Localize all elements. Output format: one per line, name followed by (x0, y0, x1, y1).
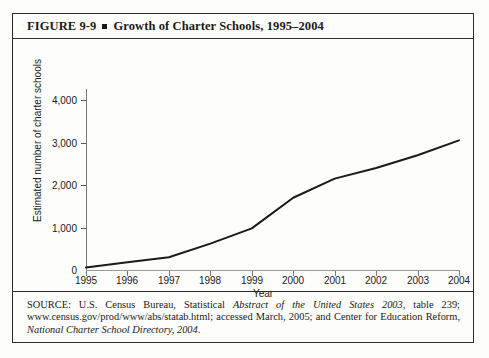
y-tick-label-4000: 4,000 (37, 95, 77, 106)
x-tick-label-2004: 2004 (439, 275, 479, 286)
figure-title-text: Growth of Charter Schools, 1995–2004 (113, 19, 323, 33)
figure-container: FIGURE 9-9Growth of Charter Schools, 199… (12, 13, 474, 343)
source-divider (13, 291, 473, 292)
y-tick-label-2000: 2,000 (37, 180, 77, 191)
source-italic-title-1: Abstract of the United States 2003 (233, 299, 403, 310)
x-tick-label-1995: 1995 (66, 275, 106, 286)
x-tick-label-1999: 1999 (232, 275, 272, 286)
figure-number: FIGURE 9-9 (27, 19, 96, 33)
source-suffix: . (198, 324, 201, 335)
x-tick-label-1998: 1998 (190, 275, 230, 286)
source-italic-title-2: National Charter School Directory, 2004 (27, 324, 198, 335)
figure-title-bar: FIGURE 9-9Growth of Charter Schools, 199… (13, 14, 473, 39)
x-axis-label: Year (213, 288, 313, 299)
page-title: FIGURE 9-9Growth of Charter Schools, 199… (27, 19, 324, 34)
x-tick-label-2000: 2000 (273, 275, 313, 286)
x-tick-label-2003: 2003 (398, 275, 438, 286)
x-tick-label-1996: 1996 (107, 275, 147, 286)
y-tick-label-1000: 1,000 (37, 223, 77, 234)
chart-plot-area: Estimated number of charter schools 4,00… (13, 39, 473, 291)
y-tick-label-3000: 3,000 (37, 138, 77, 149)
x-axis-line (86, 270, 460, 271)
source-note: SOURCE: U.S. Census Bureau, Statistical … (27, 299, 460, 336)
y-axis-line (86, 89, 87, 271)
x-tick-label-2002: 2002 (356, 275, 396, 286)
square-bullet-icon (102, 24, 107, 29)
x-tick-label-1997: 1997 (149, 275, 189, 286)
source-prefix: SOURCE: U.S. Census Bureau, Statistical (27, 299, 233, 310)
charter-schools-line-series (13, 39, 475, 291)
x-tick-label-2001: 2001 (315, 275, 355, 286)
